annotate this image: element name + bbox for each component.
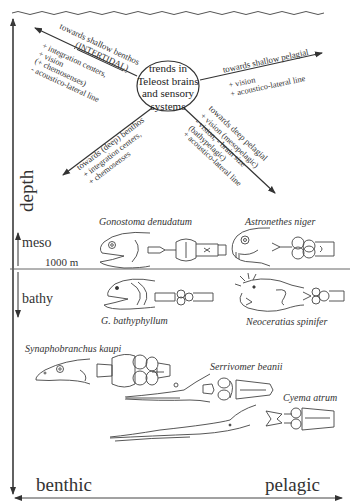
neoceratias-spinifer-body xyxy=(235,273,304,311)
water-surface-line xyxy=(12,12,324,15)
serrivomer-beanii-head xyxy=(125,374,210,402)
astronethes-niger-brain xyxy=(272,237,334,259)
gonostoma-denudatum-brain xyxy=(148,239,226,261)
zone-bathy-label: bathy xyxy=(22,292,53,306)
species-label-neoceratias-spinifer: Neoceratias spinifer xyxy=(246,317,327,327)
cyema-atrum-body xyxy=(110,405,256,441)
center-title: trends in Teleost brains and sensory sys… xyxy=(137,62,199,112)
pelagic-label: pelagic xyxy=(265,475,320,494)
cyema-atrum-brain xyxy=(266,408,334,430)
zone-meso-label: meso xyxy=(22,236,52,250)
center-line-2: Teleost brains xyxy=(137,75,199,88)
center-line-3: and sensory xyxy=(137,87,199,100)
center-line-4: systems xyxy=(137,100,199,113)
neoceratias-spinifer-brain xyxy=(303,288,344,304)
species-label-cyema-atrum: Cyema atrum xyxy=(283,393,337,403)
species-label-gonostoma-denudatum: Gonostoma denudatum xyxy=(99,217,192,227)
g-bathyphyllum-brain xyxy=(155,290,213,305)
species-label-astronethes-niger: Astronethes niger xyxy=(245,217,315,227)
gonostoma-denudatum-head xyxy=(100,232,150,268)
species-label-synaphobranchus-kaupi: Synaphobranchus kaupi xyxy=(25,344,121,354)
synaphobranchus-kaupi-brain xyxy=(97,354,170,387)
boundary-depth-label: 1000 m xyxy=(45,257,78,268)
species-label-g-bathyphyllum: G. bathyphyllum xyxy=(101,316,168,326)
synaphobranchus-kaupi-head xyxy=(36,359,90,384)
center-line-1: trends in xyxy=(137,62,199,75)
g-bathyphyllum-head xyxy=(104,279,155,309)
benthic-label: benthic xyxy=(36,475,92,494)
species-label-serrivomer-beanii: Serrivomer beanii xyxy=(210,362,283,372)
astronethes-niger-head xyxy=(232,228,270,266)
serrivomer-beanii-brain xyxy=(203,378,273,400)
depth-axis-label: depth xyxy=(17,170,36,212)
